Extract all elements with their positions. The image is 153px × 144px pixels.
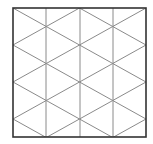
grid-lines [13, 0, 146, 144]
isometric-grid-diagram [0, 0, 153, 144]
diagonal-grid-line [13, 0, 146, 8]
diagonal-grid-line [13, 0, 146, 8]
